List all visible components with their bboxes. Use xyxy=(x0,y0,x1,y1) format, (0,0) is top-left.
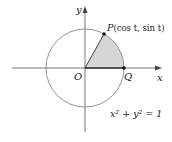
point-p xyxy=(102,32,106,36)
point-p-label: P(cos t, sin t) xyxy=(106,22,164,33)
unit-circle-diagram: y x O Q P(cos t, sin t) x² + y² = 1 xyxy=(0,0,172,142)
circle-equation: x² + y² = 1 xyxy=(110,108,162,119)
origin-label: O xyxy=(74,71,82,82)
y-axis-arrow-icon xyxy=(83,6,88,13)
shaded-sector xyxy=(85,34,124,68)
point-q xyxy=(122,66,126,70)
point-q-label: Q xyxy=(124,71,132,82)
y-axis-label: y xyxy=(75,4,82,15)
point-p-coords: (cos t, sin t) xyxy=(113,23,164,33)
x-axis-label: x xyxy=(157,72,163,83)
x-axis-arrow-icon xyxy=(155,66,162,71)
